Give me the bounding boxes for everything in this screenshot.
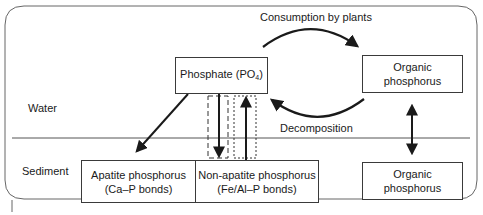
to-apatite-arrow bbox=[137, 94, 188, 151]
non-apatite-line2: (Fe/Al–P bonds) bbox=[217, 182, 296, 196]
decomposition-label: Decomposition bbox=[280, 122, 353, 135]
phosphate-node: Phosphate (PO4) bbox=[175, 57, 268, 94]
non-apatite-line1: Non-apatite phosphorus bbox=[198, 168, 315, 182]
organic-bottom-label: Organic phosphorus bbox=[363, 167, 462, 195]
consumption-arrow bbox=[263, 29, 357, 47]
phosphate-label: Phosphate (PO4) bbox=[180, 67, 263, 85]
water-label: Water bbox=[28, 102, 57, 115]
apatite-node: Apatite phosphorus (Ca–P bonds) bbox=[81, 160, 196, 203]
organic-top-node: Organic phosphorus bbox=[362, 55, 463, 93]
apatite-line2: (Ca–P bonds) bbox=[105, 182, 173, 196]
consumption-label: Consumption by plants bbox=[260, 11, 372, 24]
organic-top-label: Organic phosphorus bbox=[363, 60, 462, 88]
organic-bottom-node: Organic phosphorus bbox=[362, 162, 463, 200]
sediment-label: Sediment bbox=[22, 165, 68, 178]
apatite-line1: Apatite phosphorus bbox=[91, 168, 186, 182]
decomposition-arrow bbox=[272, 99, 364, 117]
non-apatite-node: Non-apatite phosphorus (Fe/Al–P bonds) bbox=[195, 160, 319, 203]
